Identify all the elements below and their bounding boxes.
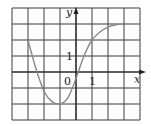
y-tick-label-1: 1: [66, 50, 73, 63]
origin-label: 0: [64, 75, 71, 88]
y-axis-label: y: [65, 6, 73, 19]
x-tick-label-1: 1: [89, 75, 96, 88]
function-graph: y x 0 1 1: [0, 0, 151, 126]
x-axis-label: x: [134, 73, 141, 86]
